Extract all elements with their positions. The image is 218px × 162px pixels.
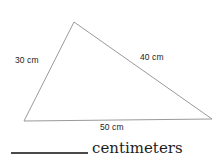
triangle-outline — [24, 22, 212, 121]
worksheet-problem-figure: 30 cm 40 cm 50 cm centimeters — [0, 0, 218, 162]
triangle-side-label-left: 30 cm — [15, 55, 39, 66]
answer-blank-line[interactable] — [11, 152, 88, 154]
triangle-side-label-right: 40 cm — [140, 52, 164, 63]
triangle-side-label-base: 50 cm — [100, 122, 124, 133]
answer-row: centimeters — [0, 138, 218, 162]
answer-unit-label: centimeters — [92, 138, 183, 158]
